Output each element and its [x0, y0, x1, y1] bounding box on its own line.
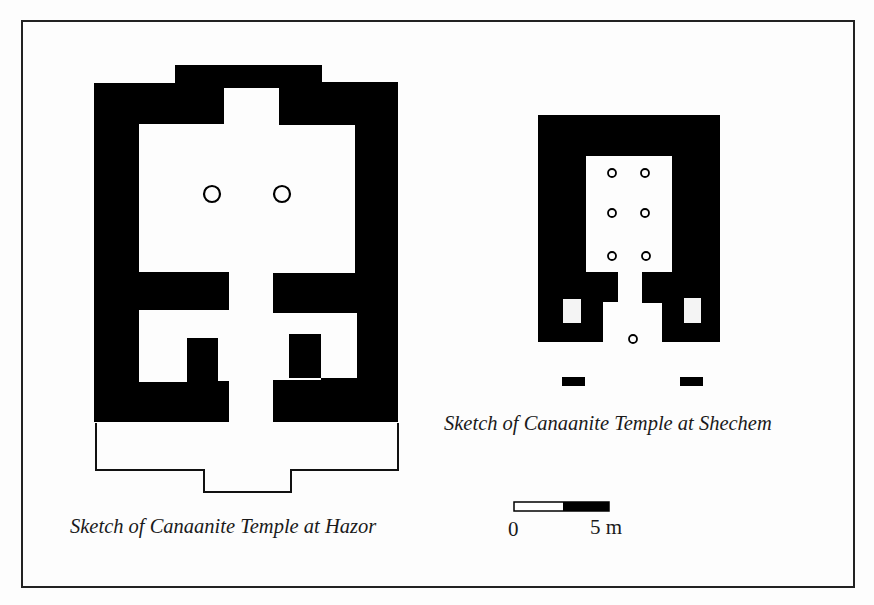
column-icon [204, 186, 220, 202]
shechem-columns [608, 169, 650, 343]
shechem-caption: Sketch of Canaanite Temple at Shechem [444, 412, 772, 435]
scale-bar [514, 502, 609, 511]
column-icon [608, 169, 616, 177]
gate-block [680, 377, 703, 386]
column-icon [629, 335, 637, 343]
column-icon [641, 169, 649, 177]
scale-end-label: 5 m [590, 515, 622, 540]
column-icon [608, 252, 616, 260]
scale-zero-label: 0 [508, 517, 519, 542]
figure: Sketch of Canaanite Temple at Hazor Sket… [0, 0, 874, 605]
column-icon [642, 252, 650, 260]
scale-bar-filled [563, 502, 609, 511]
shechem-temple-plan [538, 115, 720, 386]
gate-block [562, 377, 585, 386]
shechem-gate-blocks [562, 377, 703, 386]
hazor-caption: Sketch of Canaanite Temple at Hazor [70, 515, 376, 538]
hazor-temple-plan [94, 65, 398, 492]
hazor-walls [94, 65, 398, 422]
hazor-columns [204, 186, 290, 202]
column-icon [641, 209, 649, 217]
column-icon [608, 209, 616, 217]
hazor-forecourt-outline [96, 423, 398, 492]
column-icon [274, 186, 290, 202]
niche [563, 299, 581, 323]
niche [684, 298, 701, 323]
